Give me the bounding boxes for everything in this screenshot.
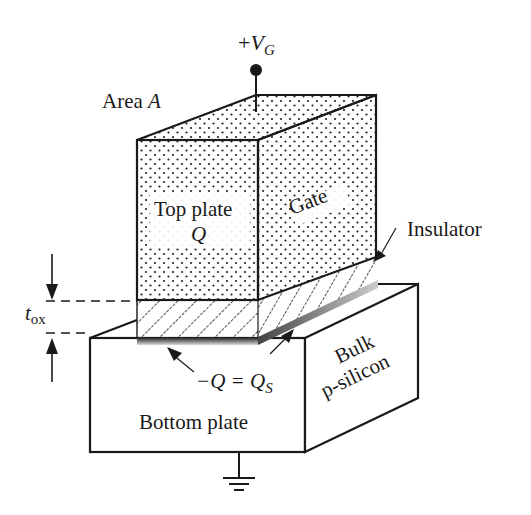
- area-label: Area A: [102, 89, 161, 113]
- insulator-label: Insulator: [407, 217, 482, 241]
- mos-capacitor-diagram: +VG Area A Top plate Q Gate Insulator to…: [0, 0, 531, 515]
- top-plate-label: Top plate: [154, 197, 232, 221]
- ground-icon: [223, 452, 255, 490]
- substrate-charge-label: −Q = QS: [196, 369, 273, 396]
- bottom-plate-label: Bottom plate: [139, 410, 248, 434]
- gate-voltage-label: +VG: [238, 30, 275, 58]
- terminal-dot-icon: [250, 64, 262, 76]
- oxide-thickness-label: tox: [25, 301, 46, 327]
- top-plate-charge-label: Q: [191, 222, 206, 246]
